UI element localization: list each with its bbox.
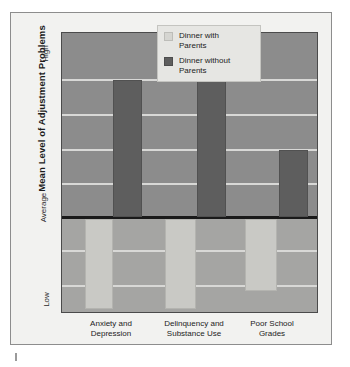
x-axis-label-1-line2: Substance Use <box>167 329 221 338</box>
chart-legend: Dinner with Parents Dinner without Paren… <box>157 25 261 82</box>
legend-label-with-line1: Dinner with <box>179 31 219 40</box>
x-axis-label-0-line1: Anxiety and <box>90 319 132 328</box>
x-axis-label-poor-school-grades: Poor School Grades <box>233 319 311 339</box>
legend-label-without: Dinner without Parents <box>179 56 230 76</box>
legend-label-without-line2: Parents <box>179 66 207 75</box>
legend-swatch-icon-without <box>164 57 173 66</box>
bar-with-parents-cat0 <box>85 219 113 309</box>
legend-label-with-line2: Parents <box>179 41 207 50</box>
gridline-1 <box>62 114 317 116</box>
legend-item-dinner-without-parents[interactable]: Dinner without Parents <box>164 56 255 76</box>
legend-label-with: Dinner with Parents <box>179 31 219 51</box>
bar-without-parents-cat1 <box>197 80 226 217</box>
y-tick-label-high: High <box>41 45 50 61</box>
y-tick-label-average: Average <box>39 193 48 223</box>
legend-swatch-icon-with <box>164 32 173 41</box>
bar-with-parents-cat1 <box>165 219 196 309</box>
bar-with-parents-cat2 <box>245 219 277 291</box>
legend-item-dinner-with-parents[interactable]: Dinner with Parents <box>164 31 255 51</box>
page-edge-mark <box>15 353 17 361</box>
x-axis-label-0-line2: Depression <box>91 329 131 338</box>
y-tick-label-low: Low <box>42 292 51 307</box>
legend-label-without-line1: Dinner without <box>179 56 230 65</box>
x-axis-label-anxiety-and-depression: Anxiety and Depression <box>69 319 153 339</box>
x-axis-label-2-line2: Grades <box>259 329 285 338</box>
x-axis-label-1-line1: Delinquency and <box>164 319 224 328</box>
x-axis-label-delinquency-and-substance-use: Delinquency and Substance Use <box>147 319 241 339</box>
bar-without-parents-cat2 <box>279 150 308 217</box>
bar-without-parents-cat0 <box>113 80 142 217</box>
x-axis-label-2-line1: Poor School <box>250 319 294 328</box>
chart-figure: Mean Level of Adjustment Problems High A… <box>10 12 332 345</box>
